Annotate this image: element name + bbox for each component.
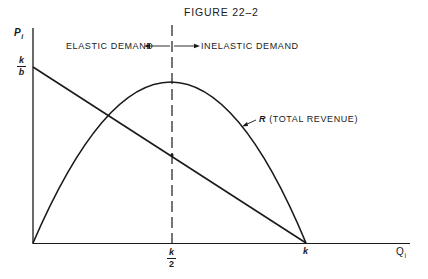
x-mid-denominator: 2 <box>169 260 174 269</box>
y-intercept-denominator: b <box>19 68 25 77</box>
figure-title: FIGURE 22–2 <box>184 6 259 18</box>
revenue-text: (TOTAL REVENUE) <box>269 114 358 124</box>
x-end-tick-label: k <box>303 246 309 256</box>
y-axis-label: Pi <box>14 27 24 40</box>
total-revenue-curve <box>33 82 306 243</box>
inelastic-arrowhead-icon <box>194 44 200 48</box>
inelastic-demand-label: INELASTIC DEMAND <box>201 41 299 51</box>
midpoint-dot <box>170 153 173 156</box>
x-axis-label: Qi <box>396 246 407 259</box>
x-axis-subscript: i <box>404 252 406 259</box>
elastic-demand-label: ELASTIC DEMAND <box>66 41 153 51</box>
y-axis-subscript: i <box>21 33 24 40</box>
x-mid-numerator: k <box>169 248 174 257</box>
y-intercept-label: k b <box>17 56 26 77</box>
revenue-symbol: R <box>259 114 266 124</box>
revenue-pointer-arrowhead-icon <box>242 122 248 127</box>
y-intercept-numerator: k <box>19 56 24 65</box>
demand-line <box>33 67 306 243</box>
revenue-curve-label: R (TOTAL REVENUE) <box>259 114 358 124</box>
x-mid-tick-label: k 2 <box>167 248 176 269</box>
